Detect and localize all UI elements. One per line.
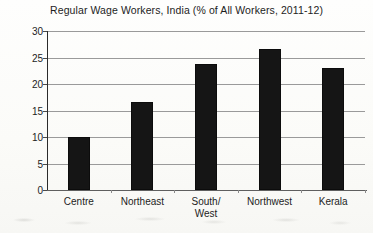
x-tick-label: Kerala — [319, 196, 348, 208]
x-tick-mark — [238, 190, 239, 193]
bars-layer — [47, 31, 365, 190]
x-tick-mark — [111, 190, 112, 193]
bar — [68, 137, 90, 190]
x-tick-label: Northeast — [121, 196, 164, 208]
x-axis-line — [47, 190, 367, 191]
x-tick-mark — [365, 190, 366, 193]
x-tick-mark — [301, 190, 302, 193]
x-tick-mark — [174, 190, 175, 193]
bar — [131, 102, 153, 191]
x-tick-label: Centre — [64, 196, 94, 208]
bar-chart-figure: Regular Wage Workers, India (% of All Wo… — [0, 0, 373, 233]
x-tick-label: Northwest — [247, 196, 292, 208]
scan-artifact — [0, 214, 373, 233]
x-tick-label: South/ West — [192, 196, 221, 219]
chart-title: Regular Wage Workers, India (% of All Wo… — [0, 4, 373, 16]
bar — [259, 49, 281, 190]
bar — [195, 64, 217, 190]
bar — [322, 68, 344, 190]
y-axis-tick-marks — [0, 31, 47, 191]
